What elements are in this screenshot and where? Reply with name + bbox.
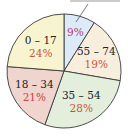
slice-category-label: 18 – 34 <box>15 78 54 90</box>
slice-category-label: 35 – 54 <box>62 89 101 101</box>
slice-percent-label: 24% <box>29 47 52 59</box>
slice-percent-label: 21% <box>23 91 46 103</box>
age-distribution-pie-chart: 9%55 – 7419%35 – 5428%18 – 3421%0 – 1724… <box>0 0 128 137</box>
pie-chart-canvas: 9%55 – 7419%35 – 5428%18 – 3421%0 – 1724… <box>0 0 128 137</box>
clipped-callout-label <box>70 0 120 2</box>
slice-category-label: 0 – 17 <box>25 34 57 46</box>
slice-percent-label: 19% <box>85 58 108 70</box>
slice-category-label: 55 – 74 <box>77 45 116 57</box>
slice-percent-label: 9% <box>67 26 84 38</box>
slice-percent-label: 28% <box>70 102 93 114</box>
pie-slices <box>7 14 121 128</box>
